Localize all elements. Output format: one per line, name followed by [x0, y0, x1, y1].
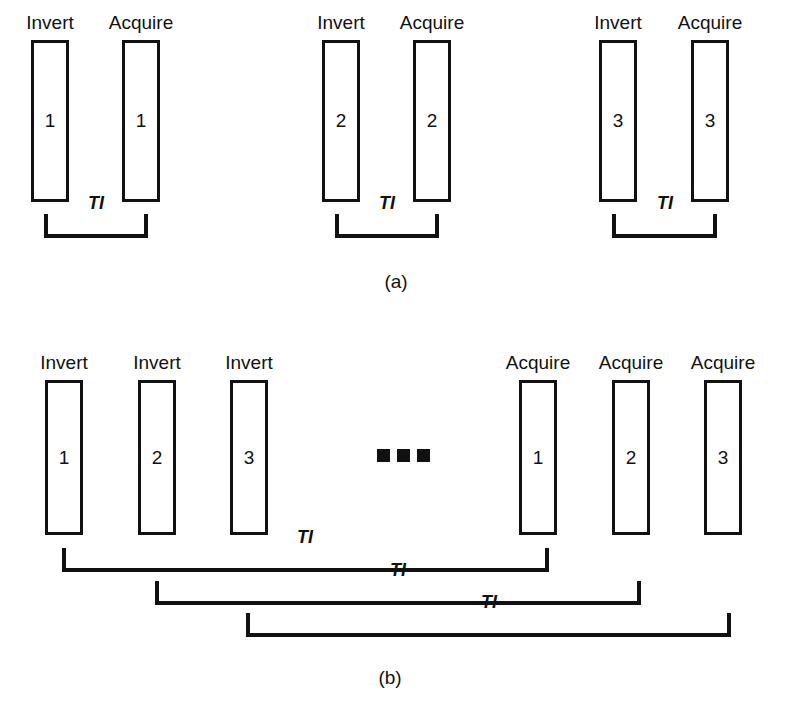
acquire-box-number: 1	[125, 111, 157, 130]
ellipsis-dot	[397, 449, 410, 462]
acquire-box: 1	[122, 40, 160, 202]
ti-label: TI	[368, 561, 428, 579]
invert-box: 1	[31, 40, 69, 202]
ti-bracket	[335, 214, 439, 238]
invert-box-number: 2	[141, 448, 173, 467]
invert-box-number: 1	[34, 111, 66, 130]
panel-b-caption: (b)	[330, 668, 450, 688]
ellipsis-dot	[377, 449, 390, 462]
ti-label: TI	[635, 194, 695, 212]
acquire-box: 3	[704, 380, 742, 535]
ti-bracket	[612, 214, 717, 238]
acquire-box: 2	[612, 380, 650, 535]
invert-box: 3	[230, 380, 268, 535]
acquire-box-number: 2	[416, 111, 448, 130]
ti-bracket	[155, 581, 641, 605]
acquire-label: Acquire	[663, 352, 783, 373]
ti-label: TI	[357, 194, 417, 212]
invert-box-number: 2	[325, 111, 357, 130]
ellipsis-icon	[377, 449, 430, 462]
invert-box: 2	[138, 380, 176, 535]
acquire-box: 1	[519, 380, 557, 535]
acquire-box-number: 2	[615, 448, 647, 467]
acquire-label: Acquire	[372, 12, 492, 33]
panel-a-caption: (a)	[336, 272, 456, 292]
ti-label: TI	[459, 593, 519, 611]
invert-box: 3	[599, 40, 637, 202]
invert-box-number: 3	[602, 111, 634, 130]
invert-box: 1	[45, 380, 83, 535]
acquire-box: 3	[691, 40, 729, 202]
ti-label: TI	[66, 194, 126, 212]
invert-box: 2	[322, 40, 360, 202]
ti-bracket	[246, 613, 731, 637]
acquire-box: 2	[413, 40, 451, 202]
invert-box-number: 1	[48, 448, 80, 467]
invert-box-number: 3	[233, 448, 265, 467]
ti-label: TI	[275, 528, 335, 546]
ti-bracket	[62, 548, 549, 572]
acquire-box-number: 1	[522, 448, 554, 467]
ti-bracket	[44, 214, 148, 238]
ellipsis-dot	[417, 449, 430, 462]
acquire-box-number: 3	[707, 448, 739, 467]
acquire-box-number: 3	[694, 111, 726, 130]
acquire-label: Acquire	[650, 12, 770, 33]
invert-label: Invert	[189, 352, 309, 373]
acquire-label: Acquire	[81, 12, 201, 33]
inversion-recovery-timing-diagram: Invert1Acquire1TIInvert2Acquire2TIInvert…	[0, 0, 792, 712]
